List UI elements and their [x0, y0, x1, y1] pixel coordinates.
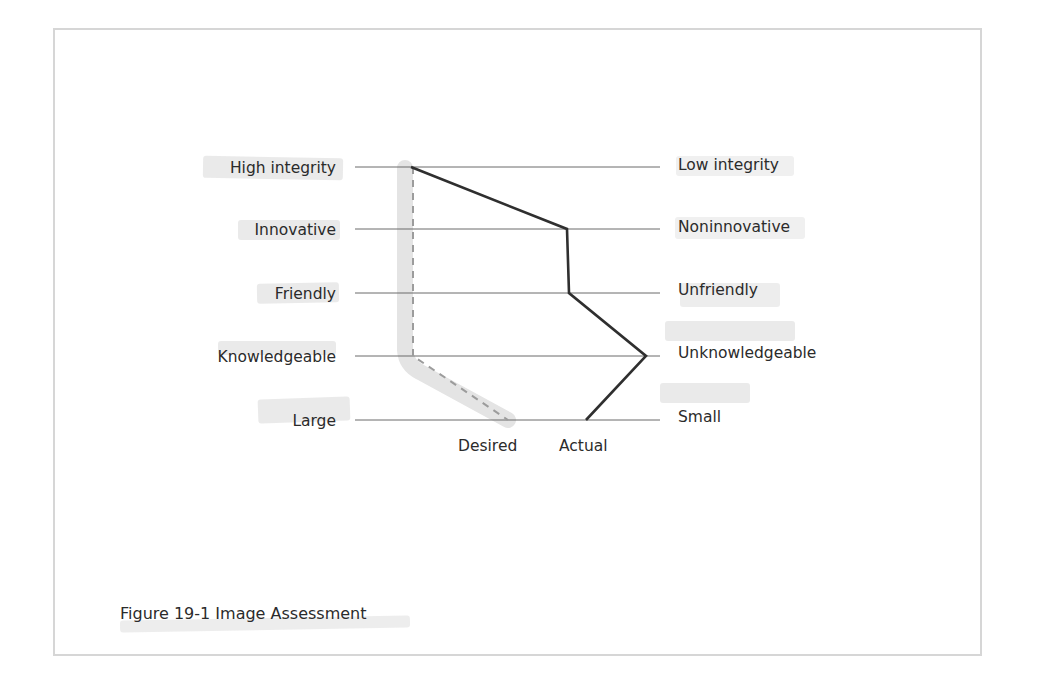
left-label-large: Large: [136, 411, 336, 431]
legend-actual: Actual: [559, 437, 608, 455]
right-label-noninnovative: Noninnovative: [678, 217, 790, 237]
right-label-low-integrity: Low integrity: [678, 155, 779, 175]
right-label-unfriendly: Unfriendly: [678, 280, 758, 300]
left-label-knowledgeable: Knowledgeable: [136, 347, 336, 367]
right-label-small: Small: [678, 407, 721, 427]
left-label-innovative: Innovative: [136, 220, 336, 240]
left-label-high-integrity: High integrity: [136, 158, 336, 178]
desired-highlight-stroke: [405, 168, 508, 420]
right-label-unknowledgeable: Unknowledgeable: [678, 343, 816, 363]
legend-desired: Desired: [458, 437, 517, 455]
left-label-friendly: Friendly: [136, 284, 336, 304]
figure-caption: Figure 19-1 Image Assessment: [120, 604, 367, 623]
